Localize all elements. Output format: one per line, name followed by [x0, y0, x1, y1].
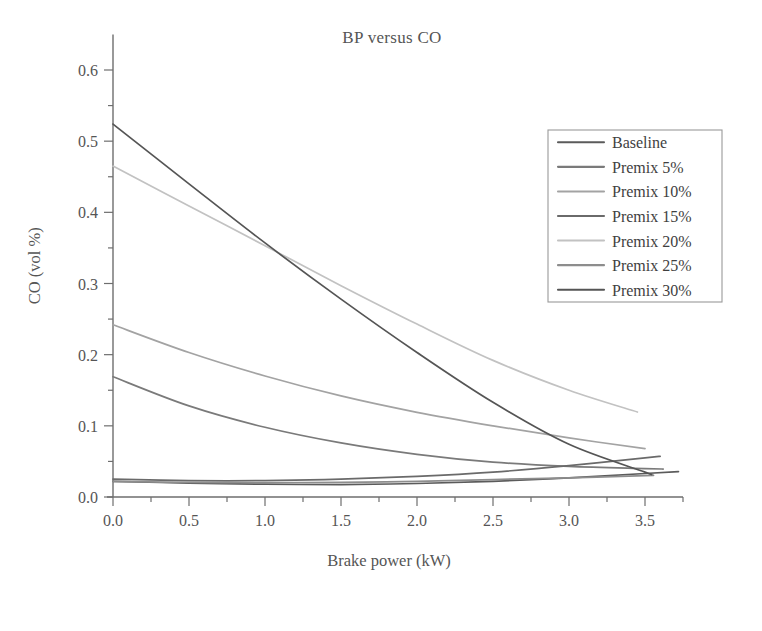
x-tick-label: 3.0 [559, 512, 579, 529]
legend-label-premix-5: Premix 5% [612, 159, 684, 176]
legend-label-premix-25: Premix 25% [612, 257, 692, 274]
y-tick-label: 0.1 [78, 418, 98, 435]
legend: BaselinePremix 5%Premix 10%Premix 15%Pre… [548, 130, 722, 302]
series-line-premix-25 [113, 475, 654, 482]
chart-figure: BP versus CO 0.00.10.20.30.40.50.60.00.5… [0, 0, 762, 631]
x-tick-label: 0.0 [103, 512, 123, 529]
y-tick-label: 0.4 [78, 204, 98, 221]
x-tick-label: 1.5 [331, 512, 351, 529]
y-axis-label: CO (vol %) [25, 227, 44, 304]
y-tick-label: 0.0 [78, 489, 98, 506]
series-line-premix-10 [113, 325, 645, 449]
legend-label-baseline: Baseline [612, 134, 667, 151]
y-axis-ticks: 0.00.10.20.30.40.50.6 [78, 62, 113, 506]
y-tick-label: 0.3 [78, 276, 98, 293]
x-tick-label: 1.0 [255, 512, 275, 529]
y-tick-label: 0.6 [78, 62, 98, 79]
x-tick-label: 2.0 [407, 512, 427, 529]
x-axis-label: Brake power (kW) [327, 551, 451, 570]
x-tick-label: 2.5 [483, 512, 503, 529]
legend-label-premix-20: Premix 20% [612, 233, 692, 250]
legend-label-premix-10: Premix 10% [612, 183, 692, 200]
series-line-premix-5 [113, 377, 663, 469]
legend-label-premix-30: Premix 30% [612, 282, 692, 299]
x-tick-label: 0.5 [179, 512, 199, 529]
chart-canvas: 0.00.10.20.30.40.50.60.00.51.01.52.02.53… [0, 0, 762, 631]
x-axis-ticks: 0.00.51.01.52.02.53.03.5 [103, 497, 683, 529]
y-tick-label: 0.2 [78, 347, 98, 364]
y-tick-label: 0.5 [78, 133, 98, 150]
legend-label-premix-15: Premix 15% [612, 208, 692, 225]
x-tick-label: 3.5 [635, 512, 655, 529]
